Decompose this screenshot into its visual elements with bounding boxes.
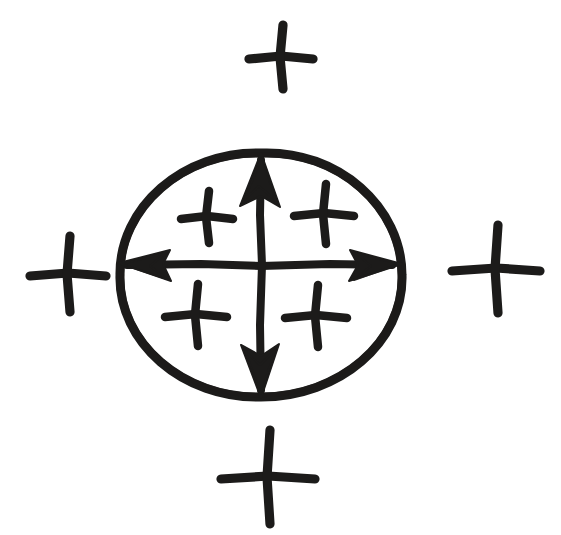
inner-plus-bottom-right [285,285,347,347]
outer-plus-left [30,236,106,312]
inner-plus-top-right [294,184,354,244]
outer-plus-right [452,225,540,313]
inner-plus-bottom-left [165,284,227,346]
inner-plus-top-left [181,191,233,243]
drawing-canvas [0,0,561,535]
outer-plus-top [249,25,313,89]
hand-drawn-sketch [0,0,561,535]
outer-plus-bottom [221,430,315,524]
